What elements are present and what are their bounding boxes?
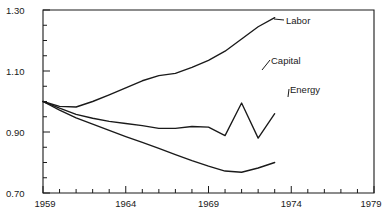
leader-line-capital xyxy=(262,60,270,70)
leader-line-labor xyxy=(274,19,284,20)
chart-container: 1.30 1.10 0.90 0.70 1959 1964 1969 1974 … xyxy=(0,0,388,216)
series-group xyxy=(43,18,275,173)
y-tick-label-0-90: 0.90 xyxy=(6,127,25,138)
x-tick-label-1969: 1969 xyxy=(198,198,219,209)
x-tick-label-1964: 1964 xyxy=(115,198,136,209)
line-chart: 1.30 1.10 0.90 0.70 1959 1964 1969 1974 … xyxy=(0,0,388,216)
series-line-energy xyxy=(43,102,275,173)
series-line-labor xyxy=(43,18,275,107)
x-tick-label-1959: 1959 xyxy=(34,198,55,209)
y-tick-label-1-30: 1.30 xyxy=(6,5,25,16)
y-tick-label-0-70: 0.70 xyxy=(6,188,25,199)
x-tick-label-1974: 1974 xyxy=(281,198,302,209)
x-tick-label-1979: 1979 xyxy=(360,198,381,209)
series-label-energy: Energy xyxy=(290,84,320,95)
series-label-labor: Labor xyxy=(286,15,310,26)
leader-line-energy xyxy=(288,89,289,97)
y-tick-label-1-10: 1.10 xyxy=(6,66,25,77)
x-axis-ticks xyxy=(43,186,374,193)
series-label-capital: Capital xyxy=(271,55,301,66)
